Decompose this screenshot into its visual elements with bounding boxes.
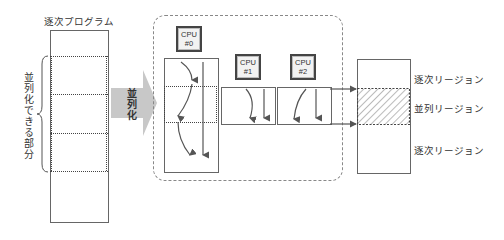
region-label-sequential-2: 逐次リージョン	[414, 143, 484, 157]
divider-4	[50, 171, 108, 172]
parallelize-label: 並列化	[123, 88, 138, 121]
divider-1	[50, 56, 108, 57]
brace-icon	[36, 54, 50, 174]
divider-3	[50, 133, 108, 134]
parallelizable-part-label: 並列化できる部分	[20, 72, 35, 160]
region-label-parallel: 並列リージョン	[414, 101, 484, 115]
right-dotted-edge	[106, 56, 107, 171]
region-label-sequential-1: 逐次リージョン	[414, 72, 484, 86]
sequential-program-title: 逐次プログラム	[44, 14, 114, 28]
parallel-region-hatch	[357, 88, 410, 125]
left-dotted-edge	[51, 56, 52, 171]
sequential-program-box	[50, 30, 109, 223]
divider-2	[50, 94, 108, 95]
